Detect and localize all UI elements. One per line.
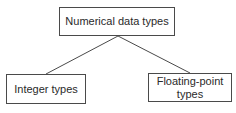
node-label: Numerical data types: [65, 15, 168, 28]
connector-root-to-floating: [118, 36, 190, 73]
connector-root-to-integer: [46, 36, 118, 74]
node-label: Floating-point types: [157, 75, 224, 101]
node-floating-point-types: Floating-point types: [148, 73, 232, 102]
node-label: Integer types: [14, 83, 78, 96]
node-integer-types: Integer types: [6, 74, 86, 104]
node-numerical-data-types: Numerical data types: [59, 7, 175, 36]
